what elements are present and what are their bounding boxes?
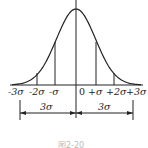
label-minus-2sigma: -2σ — [29, 86, 45, 97]
label-plus-2sigma: +2σ — [106, 86, 127, 97]
dim-label-right: 3σ — [98, 101, 111, 112]
label-minus-sigma: -σ — [49, 86, 59, 97]
normal-distribution-diagram: -3σ -2σ -σ 0 +σ +2σ +3σ 3σ 3σ 图2-20 — [0, 0, 148, 148]
arrow-right-end — [127, 111, 133, 115]
label-plus-sigma: +σ — [88, 86, 103, 97]
dim-label-left: 3σ — [40, 101, 53, 112]
figure-caption: 图2-20 — [58, 141, 84, 148]
arrow-right-start — [76, 111, 82, 115]
label-zero: 0 — [79, 86, 85, 97]
arrow-left-start — [20, 111, 26, 115]
label-plus-3sigma: +3σ — [126, 86, 147, 97]
arrow-left-end — [70, 111, 76, 115]
label-minus-3sigma: -3σ — [8, 86, 24, 97]
